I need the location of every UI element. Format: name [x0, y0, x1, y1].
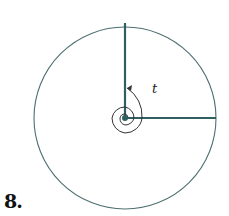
center-point — [122, 115, 128, 121]
angle-label: t — [152, 81, 157, 96]
angle-diagram — [0, 0, 229, 216]
angle-spiral — [112, 88, 142, 133]
problem-number: 8. — [4, 190, 22, 212]
